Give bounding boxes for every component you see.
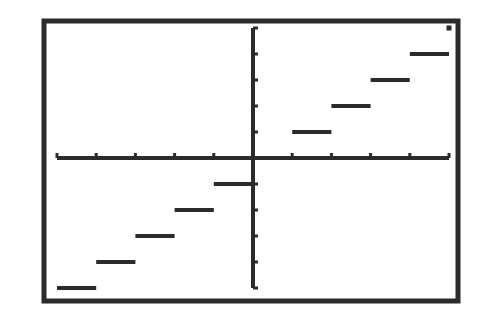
calculator-graph-screen [0, 0, 483, 313]
step-function-plot [0, 0, 483, 313]
data-point [447, 26, 452, 31]
